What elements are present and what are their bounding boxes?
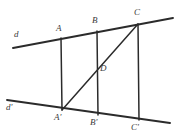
point-label-B-prime: B' xyxy=(90,118,97,127)
line-d-prime xyxy=(7,100,170,123)
geometry-drawing-area xyxy=(0,0,175,139)
segment-CC-prime xyxy=(138,24,139,120)
line-label-d: d xyxy=(14,30,19,39)
point-label-D: D xyxy=(100,64,107,73)
point-label-C-prime: C' xyxy=(131,123,139,132)
segment-AA-prime xyxy=(61,38,62,110)
point-label-B: B xyxy=(92,16,98,25)
point-label-A-prime: A' xyxy=(54,113,61,122)
point-label-A: A xyxy=(56,24,62,33)
point-label-C: C xyxy=(134,8,140,17)
geometry-diagram: d d' A B C D A' B' C' xyxy=(0,0,175,139)
segment-BB-prime xyxy=(97,31,98,115)
line-label-d-prime: d' xyxy=(6,103,12,112)
